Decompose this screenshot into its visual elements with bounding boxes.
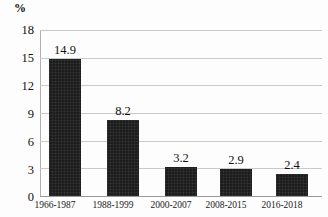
y-tick-label-18: 18 xyxy=(10,24,34,36)
gridline-12 xyxy=(40,85,322,86)
value-label-2000-2007: 3.2 xyxy=(156,152,206,165)
x-axis-label-2008-2015: 2008-2015 xyxy=(195,200,257,211)
value-label-2016-2018: 2.4 xyxy=(267,159,317,172)
y-tick-label-9: 9 xyxy=(10,108,34,120)
bar-1988-1999 xyxy=(107,120,139,196)
gridline-6 xyxy=(40,141,322,142)
gridline-0-baseline xyxy=(40,196,322,197)
x-axis-label-1988-1999: 1988-1999 xyxy=(82,200,144,211)
gridline-9 xyxy=(40,113,322,114)
y-tick-label-15: 15 xyxy=(10,52,34,64)
value-label-1966-1987: 14.9 xyxy=(40,44,90,57)
value-label-2008-2015: 2.9 xyxy=(211,154,261,167)
bar-2016-2018 xyxy=(276,174,308,196)
y-axis-unit-label: % xyxy=(14,1,26,15)
x-axis-label-2000-2007: 2000-2007 xyxy=(140,200,202,211)
bar-2008-2015 xyxy=(220,169,252,196)
y-tick-label-12: 12 xyxy=(10,80,34,92)
gridline-18 xyxy=(40,30,322,31)
bar-2000-2007 xyxy=(165,167,197,197)
y-tick-label-3: 3 xyxy=(10,164,34,176)
x-axis-label-2016-2018: 2016-2018 xyxy=(251,200,313,211)
bar-1966-1987 xyxy=(49,59,81,196)
plot-area: 14.9 8.2 3.2 2.9 2.4 xyxy=(40,30,322,196)
value-label-1988-1999: 8.2 xyxy=(98,105,148,118)
y-tick-label-6: 6 xyxy=(10,136,34,148)
gridline-15 xyxy=(40,58,322,59)
bar-chart: % 18 15 12 9 6 3 0 14.9 8.2 3.2 2.9 2.4 … xyxy=(0,0,328,217)
x-axis-label-1966-1987: 1966-1987 xyxy=(24,200,86,211)
